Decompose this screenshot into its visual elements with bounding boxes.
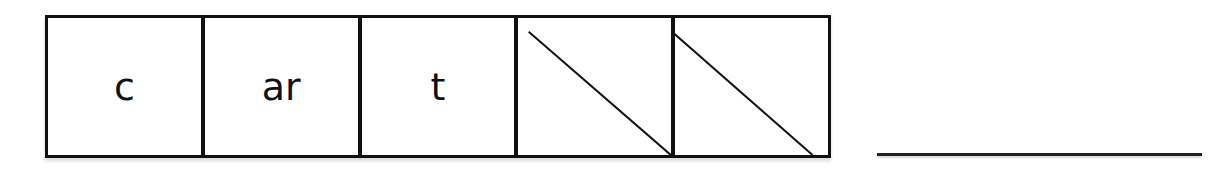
- diagonal-cross-icon: [518, 18, 671, 155]
- sound-box-text: ar: [262, 65, 301, 109]
- sound-box-text: t: [431, 65, 446, 109]
- sound-box-3: t: [358, 18, 515, 155]
- answer-line[interactable]: [877, 153, 1202, 156]
- sound-box-2: ar: [201, 18, 358, 155]
- sound-box-text: c: [114, 65, 135, 109]
- sound-box-5-crossed: [671, 18, 828, 155]
- sound-boxes: c ar t: [45, 15, 831, 158]
- sound-box-4-crossed: [514, 18, 671, 155]
- sound-box-1: c: [48, 18, 201, 155]
- diagonal-cross-icon: [675, 18, 828, 155]
